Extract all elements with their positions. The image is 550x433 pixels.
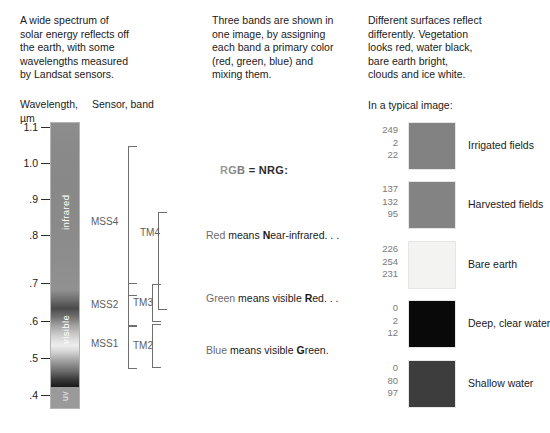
sensor-label-tm4: TM4 <box>140 227 160 238</box>
swatch-rgb-values-irrigated-fields: 249 2 22 <box>368 124 398 162</box>
intro-paragraph-surfaces: Different surfaces reflect differently. … <box>368 14 528 82</box>
sensor-label-mss4: MSS4 <box>91 216 118 227</box>
sensor-label-mss1: MSS1 <box>91 338 118 349</box>
swatch-b-irrigated-fields: 22 <box>368 149 398 162</box>
swatch-row-harvested-fields: 137 132 95 Harvested fields <box>368 181 528 237</box>
column-heading-typical-image: In a typical image: <box>368 99 508 113</box>
bracket-mss4 <box>128 146 137 296</box>
swatch-color-irrigated-fields <box>408 122 456 170</box>
swatch-b-deep-clear-water: 12 <box>368 327 398 340</box>
swatch-color-harvested-fields <box>408 181 456 229</box>
swatch-rgb-values-shallow-water: 0 80 97 <box>368 362 398 400</box>
swatch-rgb-values-deep-clear-water: 0 2 12 <box>368 302 398 340</box>
swatch-r-harvested-fields: 137 <box>368 183 398 196</box>
swatch-b-shallow-water: 97 <box>368 387 398 400</box>
rgb-equals-sign: = <box>245 164 258 176</box>
swatch-r-irrigated-fields: 249 <box>368 124 398 137</box>
swatch-label-irrigated-fields: Irrigated fields <box>468 139 534 151</box>
bracket-tm2 <box>152 324 161 368</box>
sensor-band-group: MSS4 TM4 MSS2 TM3 MSS1 TM2 <box>0 0 200 433</box>
swatch-label-harvested-fields: Harvested fields <box>468 198 543 210</box>
swatch-color-bare-earth <box>408 241 456 289</box>
mapping-line-red-tail: ear-infrared. . . <box>270 229 339 241</box>
swatch-rgb-values-bare-earth: 226 254 231 <box>368 243 398 281</box>
swatch-b-harvested-fields: 95 <box>368 208 398 221</box>
mapping-line-green-tail: ed. . . <box>312 292 338 304</box>
sensor-label-tm3: TM3 <box>133 297 153 308</box>
swatch-g-shallow-water: 80 <box>368 375 398 388</box>
intro-paragraph-bands: Three bands are shown in one image, by a… <box>212 14 372 82</box>
swatch-row-deep-clear-water: 0 2 12 Deep, clear water <box>368 300 528 356</box>
swatch-color-shallow-water <box>408 360 456 408</box>
swatch-g-deep-clear-water: 2 <box>368 315 398 328</box>
swatch-color-deep-clear-water <box>408 300 456 348</box>
swatch-label-shallow-water: Shallow water <box>468 377 533 389</box>
mapping-line-blue-lead: Blue <box>206 344 227 356</box>
mapping-line-red: Red means Near-infrared. . . <box>206 229 339 241</box>
rgb-nrg-text: NRG: <box>259 164 288 176</box>
mapping-line-blue-mid: means visible <box>227 344 296 356</box>
sensor-label-mss2: MSS2 <box>91 299 118 310</box>
swatch-r-bare-earth: 226 <box>368 243 398 256</box>
rgb-nrg-equation: RGB = NRG: <box>220 164 288 176</box>
swatch-r-shallow-water: 0 <box>368 362 398 375</box>
swatch-g-bare-earth: 254 <box>368 256 398 269</box>
swatch-g-irrigated-fields: 2 <box>368 137 398 150</box>
swatch-label-deep-clear-water: Deep, clear water <box>468 317 550 329</box>
swatch-row-irrigated-fields: 249 2 22 Irrigated fields <box>368 122 528 178</box>
swatch-g-harvested-fields: 132 <box>368 196 398 209</box>
rgb-letter-g: G <box>228 164 237 176</box>
mapping-line-green: Green means visible Red. . . <box>206 292 339 304</box>
mapping-line-green-mid: means visible <box>235 292 304 304</box>
swatch-row-shallow-water: 0 80 97 Shallow water <box>368 360 528 416</box>
swatch-rgb-values-harvested-fields: 137 132 95 <box>368 183 398 221</box>
swatch-row-bare-earth: 226 254 231 Bare earth <box>368 241 528 297</box>
sensor-label-tm2: TM2 <box>133 340 153 351</box>
mapping-line-blue: Blue means visible Green. <box>206 344 329 356</box>
swatch-b-bare-earth: 231 <box>368 268 398 281</box>
mapping-line-blue-tail: reen. <box>305 344 329 356</box>
bracket-tm3 <box>152 284 161 322</box>
mapping-line-blue-bold: G <box>296 344 304 356</box>
rgb-letter-r: R <box>220 164 228 176</box>
mapping-line-red-mid: means <box>225 229 262 241</box>
swatch-label-bare-earth: Bare earth <box>468 258 517 270</box>
mapping-line-red-lead: Red <box>206 229 225 241</box>
swatch-r-deep-clear-water: 0 <box>368 302 398 315</box>
mapping-line-green-lead: Green <box>206 292 235 304</box>
